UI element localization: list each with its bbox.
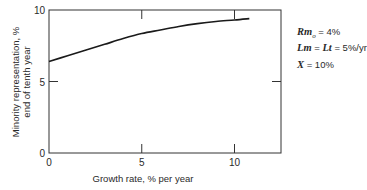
svg-text:0: 0: [39, 148, 45, 159]
svg-text:5: 5: [139, 157, 145, 168]
annotation-x: X = 10%: [297, 59, 334, 70]
annotation-var: Lm: [297, 42, 312, 53]
data-line: [49, 19, 249, 62]
annotation-equals: =: [312, 42, 323, 53]
annotation-var: X: [297, 59, 304, 70]
svg-text:5: 5: [39, 77, 45, 88]
annotation-lm-lt: Lm = Lt = 5%/yr: [297, 42, 367, 53]
axis-ticks: [49, 10, 281, 153]
y-axis-title-line2: end of tenth year: [21, 46, 32, 117]
annotation-rm0: Rmo = 4%: [297, 26, 340, 40]
y-axis-title-line1: Minority representation, %: [10, 26, 21, 137]
annotation-value: = 4%: [316, 26, 341, 37]
annotation-var: Lt: [322, 42, 331, 53]
svg-text:10: 10: [34, 5, 46, 16]
annotation-value: = 5%/yr: [332, 42, 367, 53]
plot-frame: [49, 10, 281, 153]
svg-text:10: 10: [229, 157, 241, 168]
annotation-var: Rm: [297, 26, 312, 37]
annotation-value: = 10%: [304, 59, 334, 70]
y-axis-title: Minority representation, % end of tenth …: [10, 26, 32, 137]
svg-text:0: 0: [46, 157, 52, 168]
axis-tick-labels: 05100510: [34, 5, 241, 168]
x-axis-title: Growth rate, % per year: [93, 173, 194, 184]
